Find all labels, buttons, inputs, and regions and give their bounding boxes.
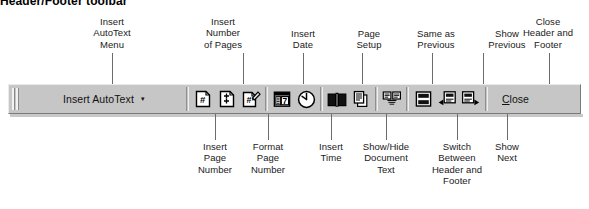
svg-text:7: 7	[283, 96, 288, 106]
callout-show-next: Show Next	[482, 141, 532, 164]
leader-line-show-next	[507, 114, 508, 140]
link-to-previous-icon	[382, 90, 402, 108]
show-next-icon	[461, 90, 481, 108]
insert-time-button[interactable]	[294, 87, 318, 111]
clock-icon	[297, 90, 316, 109]
leader-line-same-as-previous	[432, 53, 433, 84]
document-text-icon	[352, 90, 370, 108]
callout-page-setup: Page Setup	[334, 28, 404, 51]
callout-close-header-and-footer: Close Header and Footer	[508, 16, 588, 50]
leader-line-close-header-and-footer	[549, 53, 550, 84]
format-page-number-button[interactable]: #	[239, 87, 263, 111]
leader-line-insert-date	[303, 53, 304, 84]
toolbar-separator	[320, 87, 323, 111]
callout-format-page-number: Format Page Number	[231, 141, 305, 175]
callout-insert-number-of-pages: Insert Number of Pages	[180, 16, 266, 50]
close-rest: lose	[510, 93, 529, 105]
toolbar-separator	[375, 87, 378, 111]
leader-line-insert-autotext-menu	[112, 53, 113, 84]
callout-insert-autotext-menu: Insert AutoText Menu	[62, 16, 162, 50]
toolbar-drag-grip[interactable]	[11, 88, 20, 110]
toolbar-separator	[406, 87, 409, 111]
leader-line-page-setup	[362, 53, 363, 84]
close-header-and-footer-button[interactable]: Close	[493, 88, 538, 110]
page-with-hash-pencil-icon: #	[242, 90, 261, 108]
leader-line-insert-page-number	[215, 114, 216, 140]
page-setup-button[interactable]	[325, 87, 349, 111]
svg-text:#: #	[246, 95, 251, 105]
insert-autotext-button[interactable]: Insert AutoText ▾	[24, 88, 184, 110]
leader-line-insert-time	[331, 114, 332, 140]
toolbar-shadow	[10, 114, 583, 117]
callout-show-hide-document-text: Show/Hide Document Text	[352, 141, 420, 175]
toolbar-separator	[485, 87, 488, 111]
header-footer-toolbar: Insert AutoText ▾ #	[8, 84, 581, 114]
show-previous-button[interactable]	[435, 87, 459, 111]
show-hide-document-text-button[interactable]	[349, 87, 373, 111]
leader-line-show-hide-document-text	[386, 114, 387, 140]
toolbar-separator	[186, 87, 189, 111]
toolbar-separator	[265, 87, 268, 111]
page-with-plus-icon	[219, 90, 236, 108]
show-next-button[interactable]	[459, 87, 483, 111]
switch-between-header-and-footer-button[interactable]	[411, 87, 435, 111]
leader-line-show-previous	[483, 53, 484, 84]
switch-header-footer-icon	[414, 90, 433, 108]
insert-date-button[interactable]: 7	[270, 87, 294, 111]
close-accelerator: C	[502, 93, 510, 105]
chevron-down-icon: ▾	[141, 95, 145, 102]
same-as-previous-button[interactable]	[380, 87, 404, 111]
close-button-label: Close	[502, 93, 529, 105]
leader-line-format-page-number	[268, 114, 269, 140]
insert-number-of-pages-button[interactable]	[215, 87, 239, 111]
leader-line-switch-between-header-and-footer	[457, 114, 458, 140]
callout-same-as-previous: Same as Previous	[398, 28, 474, 51]
insert-page-number-button[interactable]: #	[191, 87, 215, 111]
page-with-hash-icon: #	[195, 90, 212, 108]
leader-line-insert-number-of-pages	[243, 53, 244, 84]
figure-heading: Header/Footer toolbar	[0, 0, 127, 8]
insert-autotext-label: Insert AutoText	[63, 93, 134, 105]
show-previous-icon	[437, 90, 457, 108]
callout-insert-date: Insert Date	[268, 28, 338, 51]
header-footer-toolbar-figure: Header/Footer toolbar Insert AutoText Me…	[0, 0, 589, 209]
open-book-icon	[327, 92, 347, 107]
svg-text:#: #	[199, 94, 205, 105]
calendar-icon: 7	[273, 90, 291, 108]
